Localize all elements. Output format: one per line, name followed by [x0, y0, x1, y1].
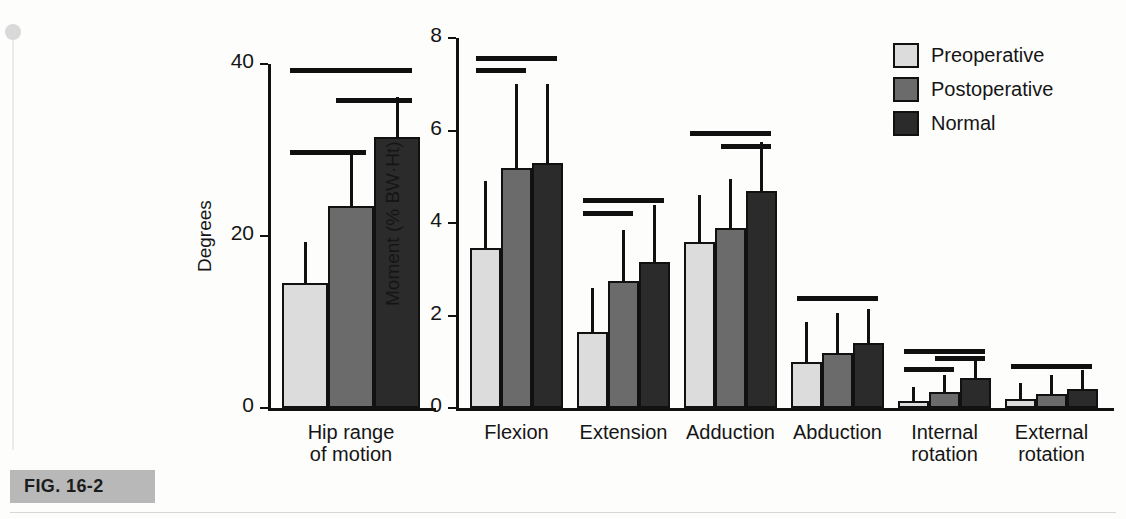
bar	[853, 343, 884, 408]
error-bar	[622, 230, 625, 281]
error-bar	[867, 309, 870, 344]
error-bar	[484, 181, 487, 248]
y-axis-tick	[448, 130, 456, 132]
significance-bar	[290, 68, 411, 73]
bar	[960, 378, 991, 408]
bar	[282, 283, 328, 408]
x-axis-group-label: External rotation	[962, 422, 1126, 465]
legend-label-preoperative: Preoperative	[931, 44, 1044, 67]
error-bar	[591, 288, 594, 332]
bar	[577, 332, 608, 408]
significance-bar	[1011, 364, 1093, 369]
y-axis-tick-label: 0	[394, 393, 442, 417]
significance-bar	[476, 68, 527, 73]
y-axis-title: Moment (% BW·Ht)	[382, 142, 404, 307]
bar	[822, 353, 853, 409]
y-axis-tick	[448, 407, 456, 409]
significance-bar	[904, 367, 955, 372]
significance-bar	[336, 98, 411, 103]
error-bar	[729, 179, 732, 228]
error-bar	[546, 84, 549, 163]
bar	[929, 392, 960, 408]
error-bar	[304, 242, 307, 283]
significance-bar	[583, 198, 665, 203]
legend-item: Postoperative	[893, 72, 1053, 106]
error-bar	[1050, 375, 1053, 394]
legend-swatch-preoperative	[893, 43, 919, 68]
y-axis-line	[456, 38, 459, 410]
bar	[1005, 399, 1036, 408]
bar	[746, 191, 777, 408]
bar	[791, 362, 822, 408]
error-bar	[515, 84, 518, 167]
y-axis-tick-label: 0	[206, 393, 254, 417]
significance-bar	[690, 131, 772, 136]
bar	[898, 401, 929, 408]
y-axis-title: Degrees	[194, 201, 216, 273]
error-bar	[350, 152, 353, 206]
significance-bar	[476, 56, 558, 61]
significance-bar	[797, 296, 879, 301]
legend-swatch-normal	[893, 111, 919, 136]
legend-label-postoperative: Postoperative	[931, 78, 1053, 101]
y-axis-tick	[260, 63, 268, 65]
bar	[608, 281, 639, 408]
error-bar	[653, 205, 656, 263]
error-bar	[836, 313, 839, 352]
bar	[639, 262, 670, 408]
page-corner-artifact-dot	[5, 24, 21, 40]
y-axis-tick	[260, 407, 268, 409]
error-bar	[943, 375, 946, 392]
bar	[1067, 389, 1098, 408]
x-axis-line	[456, 408, 1114, 411]
legend-item: Normal	[893, 106, 1053, 140]
bar	[328, 206, 374, 408]
page-edge-artifact-line	[12, 40, 14, 450]
bar	[1036, 394, 1067, 408]
significance-bar	[935, 356, 986, 361]
error-bar	[974, 359, 977, 378]
chart-legend: Preoperative Postoperative Normal	[893, 38, 1053, 140]
error-bar	[698, 195, 701, 241]
y-axis-tick-label: 6	[394, 116, 442, 140]
error-bar	[1081, 370, 1084, 389]
bar	[532, 163, 563, 408]
bar	[715, 228, 746, 408]
significance-bar	[290, 150, 365, 155]
y-axis-tick-label: 40	[206, 49, 254, 73]
y-axis-tick	[448, 222, 456, 224]
x-axis-group-label: Hip range of motion	[261, 422, 441, 465]
y-axis-tick	[448, 37, 456, 39]
legend-item: Preoperative	[893, 38, 1053, 72]
significance-bar	[904, 349, 986, 354]
y-axis-tick	[260, 235, 268, 237]
significance-bar	[583, 211, 634, 216]
error-bar	[1019, 383, 1022, 399]
significance-bar	[721, 144, 772, 149]
figure-number-label: FIG. 16-2	[10, 476, 104, 497]
y-axis-line	[268, 64, 271, 410]
bar	[470, 248, 501, 408]
figure-root: 02040DegreesHip range of motion 02468Mom…	[0, 0, 1126, 519]
error-bar	[912, 387, 915, 401]
bar	[684, 242, 715, 409]
legend-swatch-postoperative	[893, 77, 919, 102]
error-bar	[805, 322, 808, 361]
figure-caption-band: FIG. 16-2	[10, 470, 155, 503]
legend-label-normal: Normal	[931, 112, 995, 135]
caption-divider	[10, 512, 1116, 513]
y-axis-tick-label: 8	[394, 23, 442, 47]
y-axis-tick	[448, 315, 456, 317]
bar	[501, 168, 532, 409]
